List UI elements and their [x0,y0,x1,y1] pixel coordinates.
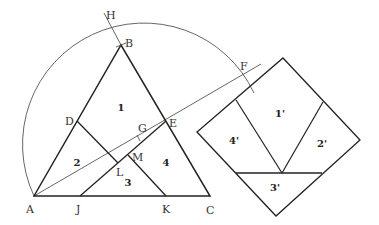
tick-g [137,135,140,141]
piece-label: 4' [229,135,239,146]
point-label-j: J [75,203,80,216]
construction-arc [23,23,254,196]
point-label-b: B [125,37,133,50]
line-je [80,121,166,196]
piece-label: 3 [125,177,132,188]
geometry-diagram: ABCDEFGHJKLM12341'2'3'4' [0,0,379,225]
point-label-d: D [65,115,74,128]
point-label-k: K [162,203,171,216]
piece-label: 1' [275,108,285,119]
piece-label: 3' [270,182,280,193]
piece-label: 1 [118,102,125,113]
point-label-g: G [138,122,147,135]
point-label-h: H [106,9,116,22]
point-label-a: A [25,203,35,216]
piece-label: 4 [163,157,170,168]
point-label-l: L [116,166,124,179]
line-dl [77,121,118,163]
piece-label: 2' [317,138,327,149]
piece-label: 2 [74,157,81,168]
point-label-c: C [206,204,214,217]
point-label-m: M [132,151,143,164]
point-label-e: E [169,117,177,130]
point-label-f: F [240,60,248,73]
